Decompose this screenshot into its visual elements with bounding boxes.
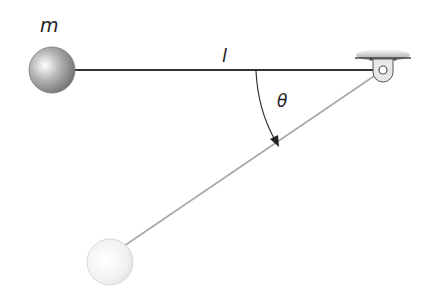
angle-arc	[256, 71, 275, 140]
mass-final	[87, 239, 133, 285]
pendulum-diagram: m l θ	[0, 0, 436, 299]
pivot-support	[355, 49, 411, 82]
pivot-pin-icon	[379, 66, 387, 74]
angle-label: θ	[277, 91, 288, 111]
mass-initial	[29, 47, 75, 93]
length-label: l	[222, 45, 227, 66]
rod-final	[124, 70, 383, 246]
mass-label: m	[40, 14, 59, 36]
diagram-svg: m l θ	[0, 0, 436, 299]
